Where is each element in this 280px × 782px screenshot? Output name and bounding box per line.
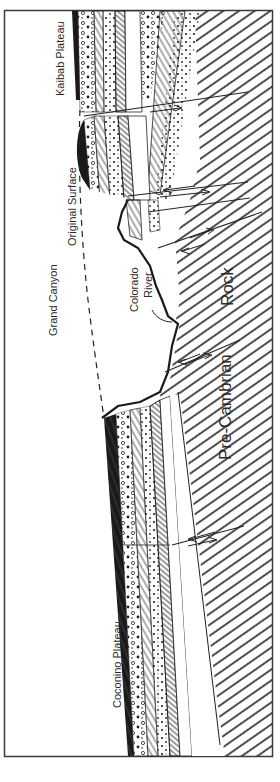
label-coconino-plateau: Coconino Plateau (111, 621, 123, 708)
grand-canyon-cross-section: Kaibab Plateau Original Surface Grand Ca… (0, 0, 280, 782)
label-kaibab-plateau: Kaibab Plateau (54, 21, 66, 96)
label-river: River (142, 272, 154, 298)
label-colorado: Colorado (128, 267, 140, 312)
label-rock: Rock (218, 267, 237, 306)
label-grand-canyon: Grand Canyon (47, 264, 59, 336)
label-original-surface: Original Surface (66, 167, 78, 246)
label-pre-cambrian: Pre-Cambrian (216, 354, 235, 460)
